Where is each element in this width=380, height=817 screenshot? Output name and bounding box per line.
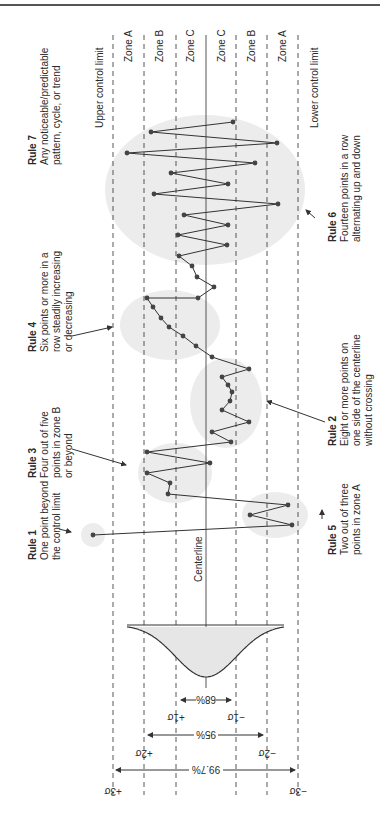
data-point [125,151,130,156]
data-point [151,305,156,310]
sigma-label-m1: −1σ [226,712,244,723]
data-point [230,390,235,395]
coverage-annotations: 68% 95% 99.7% +1σ −1σ +2σ −2σ +3σ −3σ [103,694,306,797]
data-point [253,161,258,166]
svg-text:points in zone B: points in zone B [51,407,62,478]
coverage-99-7: 99.7% [192,764,220,775]
data-point [167,325,172,330]
zone-label: Zone C [185,29,196,62]
rule-highlight-regions [81,115,308,547]
data-point [212,285,217,290]
svg-text:Six points or more in a: Six points or more in a [39,252,50,352]
zone-label: Zone A [277,30,288,62]
svg-text:One point beyond: One point beyond [39,481,50,560]
svg-text:the control limit: the control limit [51,493,62,560]
svg-text:Rule 3: Rule 3 [27,448,38,478]
data-point [208,461,213,466]
svg-text:pattern, cycle, or trend: pattern, cycle, or trend [51,66,62,166]
data-point [276,202,281,207]
svg-text:Two out of three: Two out of three [339,483,350,555]
rule4-label: Rule 4 Six points or more in a row stead… [27,251,74,352]
data-point [226,223,231,228]
rule1-label: Rule 1 One point beyond the control limi… [27,481,62,560]
sigma-label-m3: −3σ [288,786,306,797]
data-point [286,503,291,508]
upper-control-limit-label: Upper control limit [94,47,105,128]
data-point [229,440,234,445]
svg-text:or beyond: or beyond [63,434,74,478]
data-point [226,182,231,187]
rule7-highlight-region [105,115,305,265]
svg-text:or decreasing: or decreasing [63,291,74,352]
zone-label: Zone A [123,30,134,62]
svg-text:without crossing: without crossing [363,374,374,447]
svg-text:Rule 4: Rule 4 [27,322,38,352]
data-point [228,399,233,404]
data-point [149,130,154,135]
svg-text:row steadily increasing: row steadily increasing [51,251,62,352]
data-point [145,450,150,455]
sigma-label-p3: +3σ [103,786,121,797]
svg-text:Four out of five: Four out of five [39,411,50,478]
rule2-highlight-region [190,358,262,448]
zone-label: Zone B [154,29,165,62]
sigma-label-p2: +2σ [134,748,152,759]
data-point [152,192,157,197]
sigma-label-m2: −2σ [257,748,275,759]
data-point [190,264,195,269]
data-point [220,408,225,413]
data-point [166,492,171,497]
rule7-label: Rule 7 Any noticeable/predictable patter… [27,47,62,165]
svg-text:points in zone A: points in zone A [351,484,362,555]
svg-text:one side of the centerline: one side of the centerline [351,334,362,446]
svg-text:alternating up and down: alternating up and down [351,135,362,242]
data-point [220,375,225,380]
data-point [169,171,174,176]
lower-control-limit-label: Lower control limit [309,47,320,128]
zone-label: Zone B [246,29,257,62]
svg-text:Rule 6: Rule 6 [327,212,338,242]
data-point [145,471,150,476]
data-point [210,355,215,360]
svg-text:Rule 2: Rule 2 [327,416,338,446]
data-point [196,296,201,301]
coverage-68: 68% [196,694,216,705]
svg-text:Rule 1: Rule 1 [27,530,38,560]
data-point [182,213,187,218]
zone-label: Zone C [216,29,227,62]
svg-text:Rule 5: Rule 5 [327,525,338,555]
data-point [247,420,252,425]
svg-text:Rule 7: Rule 7 [27,135,38,165]
data-point [181,334,186,339]
coverage-95: 95% [196,729,216,740]
control-chart-diagram: Zone AZone BZone CZone CZone BZone A Upp… [0,0,380,817]
svg-text:Eight or more points on: Eight or more points on [339,343,350,446]
centerline-label: Centerline [193,536,204,582]
data-point [168,481,173,486]
data-point [226,383,231,388]
data-point [159,316,164,321]
data-point [247,367,252,372]
rule6-label: Rule 6 Fourteen points in a row alternat… [327,134,362,242]
data-point [231,120,236,125]
zone-labels: Zone AZone BZone CZone CZone BZone A [123,29,288,62]
rule5-label: Rule 5 Two out of three points in zone A [327,483,362,555]
data-point [145,296,150,301]
svg-text:Fourteen points in a row: Fourteen points in a row [339,134,350,242]
rule3-label: Rule 3 Four out of five points in zone B… [27,407,74,478]
data-point [248,513,253,518]
data-point [195,275,200,280]
data-point [176,233,181,238]
rule2-label: Rule 2 Eight or more points on one side … [327,334,374,447]
data-point [275,141,280,146]
data-point [210,430,215,435]
data-point [225,243,230,248]
data-point [91,533,96,538]
normal-distribution-curve [127,625,284,677]
svg-text:Any noticeable/predictable: Any noticeable/predictable [39,47,50,165]
data-point [177,254,182,259]
data-point [290,523,295,528]
data-point [194,344,199,349]
sigma-label-p1: +1σ [166,712,184,723]
